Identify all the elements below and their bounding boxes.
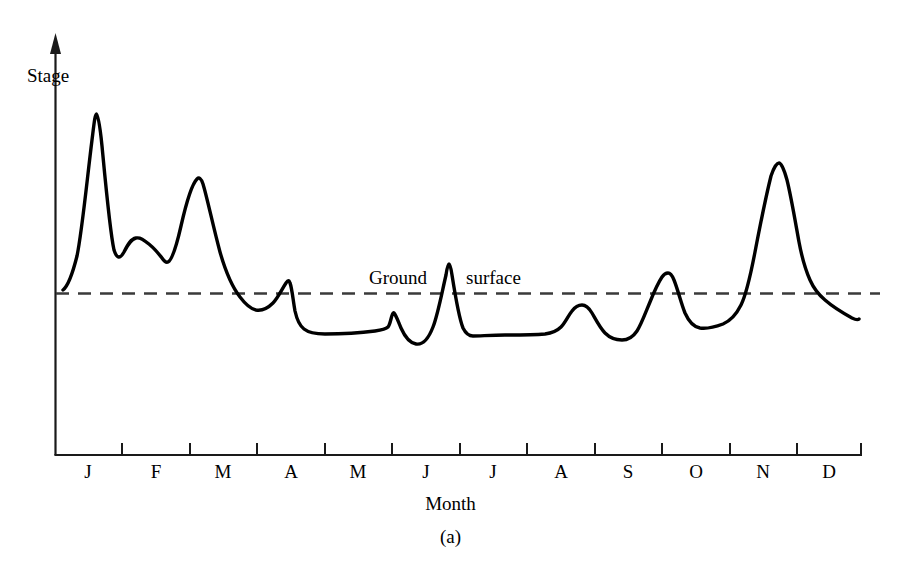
x-tick-label-feb: F bbox=[122, 462, 190, 481]
y-axis bbox=[50, 33, 61, 455]
x-tick-label-sep: S bbox=[594, 462, 662, 481]
hydrograph-plot bbox=[0, 0, 901, 572]
x-tick-label-may: M bbox=[324, 462, 392, 481]
x-tick-label-nov: N bbox=[729, 462, 797, 481]
x-tick-label-jan: J bbox=[54, 462, 122, 481]
y-axis-title: Stage bbox=[27, 66, 69, 85]
x-tick-label-aug: A bbox=[527, 462, 595, 481]
panel-caption: (a) bbox=[0, 527, 901, 546]
x-tick-label-mar: M bbox=[189, 462, 257, 481]
x-tick-label-dec: D bbox=[795, 462, 863, 481]
ground-surface-label-word1: Ground bbox=[369, 268, 427, 287]
x-axis-title: Month bbox=[0, 494, 901, 513]
x-axis-ticks bbox=[122, 443, 861, 455]
x-tick-label-apr: A bbox=[257, 462, 325, 481]
x-tick-label-oct: O bbox=[662, 462, 730, 481]
x-tick-label-jul: J bbox=[459, 462, 527, 481]
x-tick-label-jun: J bbox=[392, 462, 460, 481]
figure-container: Stage Ground surface J F M A M J J A S O… bbox=[0, 0, 901, 572]
stage-curve bbox=[63, 114, 859, 344]
ground-surface-label-word2: surface bbox=[466, 268, 521, 287]
x-axis bbox=[54, 443, 862, 455]
